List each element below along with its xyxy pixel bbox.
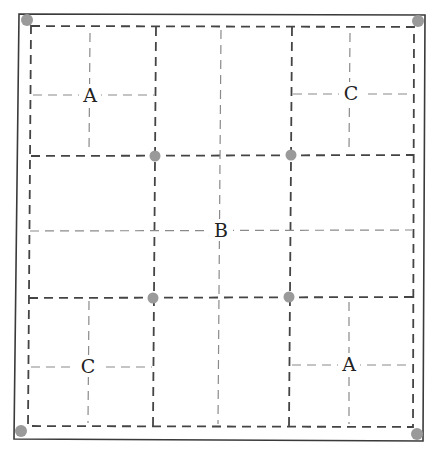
vertical-line-left bbox=[153, 27, 156, 427]
partition-diagram: A C B C A bbox=[0, 0, 435, 457]
dot-inner-bottom-right bbox=[284, 292, 295, 303]
label-a-top-left: A bbox=[82, 84, 97, 106]
label-c-top-right: C bbox=[344, 82, 359, 104]
dot-corner-top-left bbox=[21, 14, 33, 26]
dot-inner-top-right bbox=[286, 150, 297, 161]
label-c-bottom-left: C bbox=[81, 355, 96, 377]
vertical-line-right bbox=[289, 27, 292, 427]
horizontal-line-bottom bbox=[29, 297, 413, 298]
horizontal-line-top bbox=[31, 155, 413, 156]
dot-corner-top-right bbox=[412, 15, 424, 27]
dot-corner-bottom-right bbox=[411, 428, 423, 440]
dot-inner-top-left bbox=[150, 151, 161, 162]
label-a-bottom-right: A bbox=[341, 353, 356, 375]
dot-corner-bottom-left bbox=[15, 425, 27, 437]
dot-inner-bottom-left bbox=[148, 293, 159, 304]
label-b-center: B bbox=[214, 219, 228, 241]
